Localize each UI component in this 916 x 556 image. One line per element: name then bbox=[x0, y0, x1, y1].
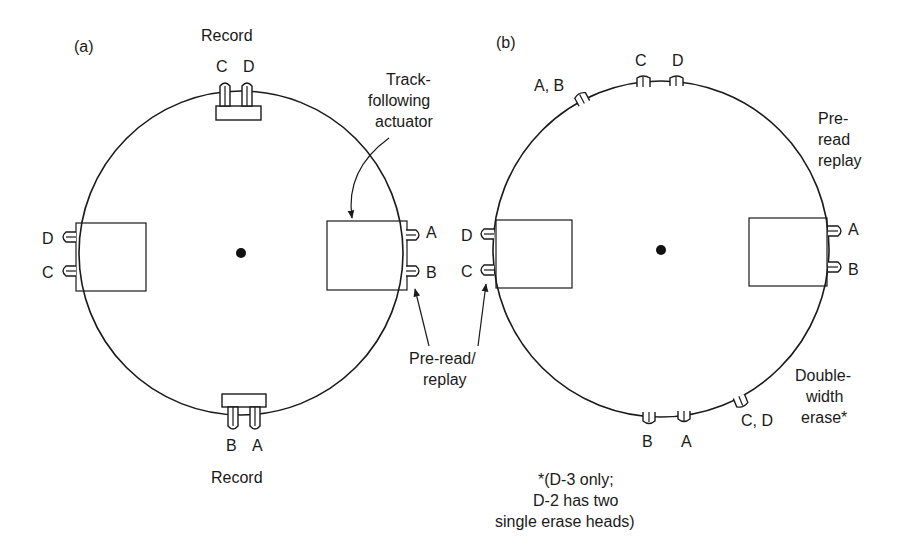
left-head-d-label-b: D bbox=[461, 227, 473, 244]
drum-spindle-a bbox=[236, 248, 246, 258]
actuator-arrow bbox=[351, 138, 389, 218]
bottom-head-b-label-b: B bbox=[642, 433, 653, 450]
preread-arrow-b bbox=[478, 284, 486, 346]
right-head-b-label-b: B bbox=[848, 261, 859, 278]
right-heads-b bbox=[828, 226, 841, 272]
cd-erase-head bbox=[733, 394, 748, 409]
double-width-line2: width bbox=[805, 388, 843, 405]
right-heads-a bbox=[406, 230, 419, 276]
preread-label-line2: replay bbox=[423, 371, 467, 388]
left-block-b bbox=[496, 220, 572, 288]
panel-a: (a) Record C D B A Record bbox=[42, 27, 437, 486]
double-width-line3: erase* bbox=[801, 409, 847, 426]
cd-erase-label: C, D bbox=[741, 412, 773, 429]
preread-b-line2: read bbox=[818, 131, 850, 148]
bottom-record-head-assembly bbox=[222, 394, 266, 429]
panel-a-label: (a) bbox=[74, 38, 94, 55]
bottom-head-a-label: A bbox=[252, 437, 263, 454]
footnote-line3: single erase heads) bbox=[495, 513, 635, 530]
double-width-line1: Double- bbox=[795, 367, 851, 384]
preread-arrow-a bbox=[415, 289, 429, 346]
left-actuator-block-a bbox=[76, 223, 146, 291]
drum-spindle-b bbox=[656, 245, 666, 255]
preread-b-line3: replay bbox=[818, 152, 862, 169]
ab-erase-label: A, B bbox=[534, 77, 564, 94]
actuator-label-line3: actuator bbox=[375, 113, 433, 130]
scanner-drum-head-diagram: (a) Record C D B A Record bbox=[0, 0, 916, 556]
left-heads-b bbox=[481, 229, 494, 275]
top-record-label: Record bbox=[201, 27, 253, 44]
top-head-d-label-b: D bbox=[672, 52, 684, 69]
bottom-record-label: Record bbox=[211, 469, 263, 486]
preread-label-line1: Pre-read/ bbox=[409, 350, 476, 367]
footnote-line1: *(D-3 only; bbox=[538, 471, 614, 488]
right-head-b-label: B bbox=[426, 264, 437, 281]
track-following-actuator-block bbox=[327, 221, 407, 290]
right-head-a-label: A bbox=[426, 224, 437, 241]
preread-b-line1: Pre- bbox=[818, 110, 848, 127]
actuator-label-line2: following bbox=[368, 92, 430, 109]
left-head-c-label-b: C bbox=[461, 263, 473, 280]
panel-b: (b) C D A, B Pre- read replay D bbox=[461, 34, 862, 530]
left-head-c-label: C bbox=[42, 264, 54, 281]
top-head-d-label: D bbox=[243, 58, 255, 75]
panel-b-label: (b) bbox=[496, 34, 516, 51]
left-heads-a bbox=[63, 232, 76, 276]
right-head-a-label-b: A bbox=[848, 221, 859, 238]
preread-replay-annotation: Pre-read/ replay bbox=[409, 284, 486, 388]
actuator-label-line1: Track- bbox=[386, 71, 431, 88]
footnote: *(D-3 only; D-2 has two single erase hea… bbox=[495, 471, 635, 530]
top-head-c-label-b: C bbox=[635, 52, 647, 69]
top-record-head-assembly bbox=[216, 83, 261, 120]
bottom-head-a-label-b: A bbox=[681, 433, 692, 450]
right-block-b bbox=[749, 218, 827, 286]
top-head-c-label: C bbox=[216, 58, 228, 75]
bottom-head-b-label: B bbox=[226, 437, 237, 454]
footnote-line2: D-2 has two bbox=[533, 492, 618, 509]
left-head-d-label: D bbox=[42, 230, 54, 247]
